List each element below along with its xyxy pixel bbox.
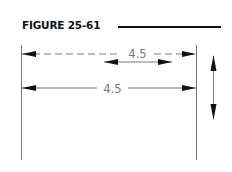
vertical-double-arrow [211,55,217,120]
dashed-dimension: 4.5 [22,47,196,61]
dashed-dimension-label: 4.5 [128,47,146,61]
solid-dimension: 4.5 [22,82,196,96]
solid-dimension-label: 4.5 [103,82,121,96]
dimension-drawing: 4.5 4.5 [0,0,232,172]
